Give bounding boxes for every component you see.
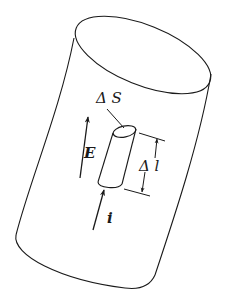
conductor-body <box>16 0 221 288</box>
conductor-top-face <box>65 0 221 110</box>
element-top-face <box>112 124 137 140</box>
conductor-right-edge <box>155 74 211 275</box>
delta-s-leader <box>107 109 124 128</box>
volume-element <box>98 124 137 188</box>
field-label: E <box>84 146 95 161</box>
delta-s-label: Δ S <box>96 91 122 106</box>
conductor-left-edge <box>16 38 74 235</box>
delta-l-label: Δ l <box>139 159 159 174</box>
conductor-bottom-edge <box>16 235 155 288</box>
current-arrow-icon <box>93 190 104 230</box>
current-label: i <box>107 211 113 226</box>
diagram-canvas <box>0 0 225 307</box>
